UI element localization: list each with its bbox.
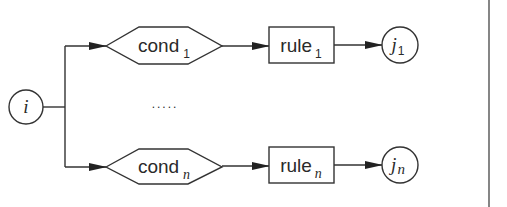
source-node-label: i bbox=[23, 96, 28, 117]
ellipsis: ..... bbox=[152, 97, 179, 111]
branch-n: condn rulen jn bbox=[65, 147, 418, 184]
rule-branching-diagram: i cond1 rule1 j1 ..... condn rulen bbox=[0, 0, 507, 207]
branch-1: cond1 rule1 j1 bbox=[65, 27, 418, 64]
source-node-i: i bbox=[9, 90, 43, 124]
